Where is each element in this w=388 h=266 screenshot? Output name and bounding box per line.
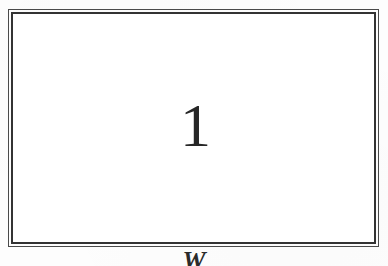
caption-fragment: W	[0, 248, 388, 266]
scanned-figure-page: 1 W	[0, 0, 388, 266]
figure-frame-inner-rule: 1	[11, 12, 376, 244]
figure-number: 1	[180, 94, 211, 156]
caption-clip-region: W	[0, 248, 388, 266]
figure-frame-content: 1	[13, 14, 374, 242]
